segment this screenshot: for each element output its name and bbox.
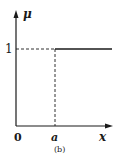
step-function-chart: μ 1 0 a x (b) (0, 0, 120, 160)
origin-label: 0 (14, 131, 22, 144)
x-tick-a: a (51, 131, 58, 144)
y-tick-one: 1 (5, 42, 13, 56)
figure-caption: (b) (54, 145, 65, 154)
x-axis-label: x (98, 130, 107, 144)
y-axis-arrow-icon (14, 10, 19, 18)
x-axis-arrow-icon (105, 124, 113, 129)
y-axis-label: μ (23, 7, 32, 21)
